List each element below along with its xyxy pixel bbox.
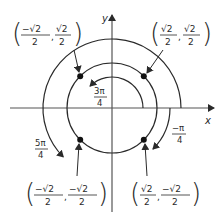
label-neg-pi-4: −π 4 [172, 123, 186, 145]
svg-text:,: , [157, 192, 160, 202]
svg-text:): ) [98, 178, 108, 208]
leader-q3 [77, 144, 79, 176]
svg-text:−√2: −√2 [35, 184, 54, 194]
point-q2 [77, 73, 83, 79]
svg-text:): ) [191, 178, 201, 208]
point-q1 [141, 73, 147, 79]
svg-text:2: 2 [165, 37, 171, 47]
arc-neg-pi-4 [153, 108, 170, 149]
svg-text:2: 2 [45, 197, 51, 207]
svg-text:(: ( [12, 18, 22, 48]
svg-text:5π: 5π [35, 138, 46, 148]
svg-text:,: , [178, 32, 181, 42]
svg-text:2: 2 [172, 197, 178, 207]
svg-text:): ) [202, 18, 212, 48]
svg-text:2: 2 [79, 197, 85, 207]
svg-text:2: 2 [32, 37, 38, 47]
point-q3 [77, 137, 83, 143]
svg-text:3π: 3π [94, 86, 105, 96]
svg-text:(: ( [25, 178, 35, 208]
svg-text:2: 2 [144, 197, 150, 207]
svg-text:,: , [64, 192, 67, 202]
svg-text:2: 2 [59, 37, 65, 47]
svg-text:4: 4 [38, 150, 43, 160]
point-q4 [141, 137, 147, 143]
coord-label-q1: ( √2 2 , √2 2 ) [150, 18, 212, 48]
svg-text:√2: √2 [184, 24, 195, 34]
label-5pi-4: 5π 4 [35, 138, 48, 160]
svg-text:−√2: −√2 [162, 184, 181, 194]
y-axis-label: y [101, 13, 109, 24]
svg-text:2: 2 [188, 37, 194, 47]
svg-text:(: ( [150, 18, 160, 48]
label-3pi-4: 3π 4 [94, 86, 107, 108]
unit-circle-diagram: x y 3π 4 5π 4 −π 4 ( −√2 2 , √2 2 [0, 0, 224, 217]
coord-label-q2: ( −√2 2 , √2 2 ) [12, 18, 83, 48]
svg-text:√2: √2 [56, 24, 67, 34]
leader-q4 [145, 144, 147, 176]
svg-text:,: , [51, 32, 54, 42]
x-axis-label: x [204, 115, 211, 126]
svg-text:−√2: −√2 [69, 184, 88, 194]
svg-text:(: ( [130, 178, 140, 208]
leader-q2 [74, 50, 79, 72]
svg-text:√2: √2 [141, 184, 152, 194]
svg-text:√2: √2 [161, 24, 172, 34]
svg-text:4: 4 [177, 135, 182, 145]
svg-text:−π: −π [172, 123, 184, 133]
svg-text:): ) [73, 18, 83, 48]
svg-text:4: 4 [97, 98, 102, 108]
svg-text:−√2: −√2 [22, 24, 41, 34]
coord-label-q4: ( √2 2 , −√2 2 ) [130, 178, 201, 208]
coord-label-q3: ( −√2 2 , −√2 2 ) [25, 178, 108, 208]
